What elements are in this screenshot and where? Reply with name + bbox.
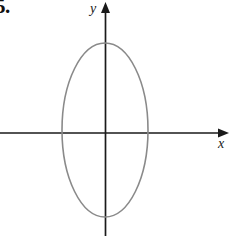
y-axis-arrowhead <box>101 2 110 13</box>
figure-container: 5. y x <box>0 0 232 236</box>
problem-number-label: 5. <box>0 0 10 17</box>
y-axis-label: y <box>90 2 96 16</box>
coordinate-plot <box>0 0 232 236</box>
x-axis-label: x <box>218 137 224 151</box>
